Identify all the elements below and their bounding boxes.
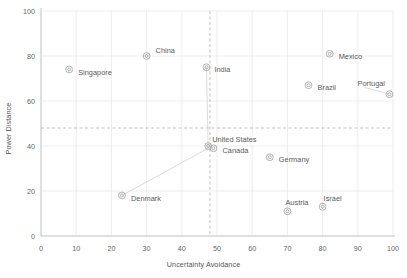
y-tick-label: 100: [9, 7, 35, 16]
point-label: Mexico: [339, 52, 362, 61]
x-tick-label: 100: [378, 244, 407, 253]
leader-line: [122, 148, 208, 195]
leader-line: [206, 67, 208, 148]
point-label: Canada: [222, 146, 248, 155]
point-label: Singapore: [78, 68, 112, 77]
x-tick-label: 60: [237, 244, 267, 253]
y-tick-label: 20: [9, 187, 35, 196]
point-label: Brazil: [318, 83, 336, 92]
y-tick-label: 40: [9, 142, 35, 151]
point-label: Portugal: [357, 79, 385, 88]
data-point-marker[interactable]: [266, 154, 273, 161]
x-tick-label: 40: [167, 244, 197, 253]
point-label: Denmark: [131, 194, 161, 203]
x-tick-label: 0: [26, 244, 56, 253]
point-label: China: [156, 46, 175, 55]
point-label: Austria: [285, 198, 308, 207]
x-tick-label: 70: [272, 244, 302, 253]
scatter-chart: 020406080100 0102030405060708090100 Sing…: [0, 0, 407, 278]
point-label: United States: [212, 135, 256, 144]
point-label: Israel: [324, 194, 342, 203]
y-tick-label: 80: [9, 52, 35, 61]
x-tick-label: 90: [343, 244, 373, 253]
y-axis-title: Power Distance: [4, 99, 13, 159]
data-point-marker[interactable]: [305, 82, 312, 89]
data-points: [66, 50, 393, 214]
x-tick-label: 80: [308, 244, 338, 253]
x-tick-label: 50: [202, 244, 232, 253]
leader-lines: [122, 67, 390, 195]
y-tick-label: 60: [9, 97, 35, 106]
data-point-marker[interactable]: [66, 66, 73, 73]
chart-canvas: [0, 0, 407, 278]
x-axis-title: Uncertainty Avoidance: [0, 260, 407, 269]
x-tick-label: 30: [132, 244, 162, 253]
y-tick-label: 0: [9, 232, 35, 241]
x-tick-label: 10: [61, 244, 91, 253]
point-label: Germany: [279, 155, 309, 164]
x-tick-label: 20: [96, 244, 126, 253]
point-label: India: [214, 65, 230, 74]
